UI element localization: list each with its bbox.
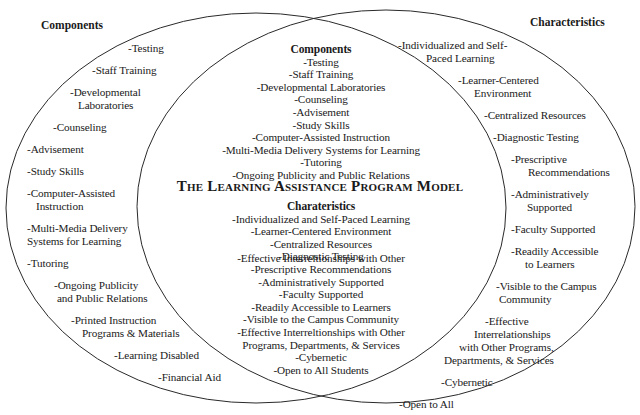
left-item-tutoring: -Tutoring [27,257,69,270]
right-item-readily-accessible: -Readily Accessible [511,245,598,258]
intersection-characteristic-item: -Visible to the Campus Community [171,313,471,326]
intersection-components: Components -Testing -Staff Training -Dev… [171,43,471,182]
right-item-visible-campus: -Visible to the Campus [496,280,597,293]
right-item-to-learners: to Learners [525,258,575,271]
right-item-effective: -Effective [485,315,529,328]
intersection-characteristic-item: -Administratively Supported [171,276,471,289]
diagram-title: The Learning Assistance Program Model [0,178,640,195]
intersection-characteristic-item: Programs, Departments, & Services [171,339,471,352]
intersection-component-item: -Testing [171,56,471,69]
left-item-developmental: -Developmental [70,86,141,99]
intersection-component-item: -Staff Training [171,68,471,81]
intersection-component-item: -Multi-Media Delivery Systems for Learni… [171,144,471,157]
intersection-characteristic-item: -Diagnostic Testing [171,250,471,263]
intersection-characteristic-item: -Centralized Resources [171,238,471,251]
intersection-characteristic-item: -Prescriptive Recommendations [171,263,471,276]
right-item-diagnostic-testing: -Diagnostic Testing [493,131,579,144]
intersection-characteristic-item: -Learner-Centered Environment [171,225,471,238]
left-item-advisement: -Advisement [27,143,84,156]
left-item-systems-for-learning: Systems for Learning [27,235,121,248]
intersection-component-item: -Advisement [171,106,471,119]
intersection-characteristic-item: -Readily Accessible to Learners [171,301,471,314]
intersection-component-item: -Developmental Laboratories [171,81,471,94]
left-item-programs-materials: Programs & Materials [82,327,179,340]
right-item-centralized-resources: -Centralized Resources [484,109,586,122]
left-item-staff-training: -Staff Training [92,64,157,77]
left-item-counseling: -Counseling [53,121,107,134]
intersection-component-item: -Tutoring [171,156,471,169]
left-item-multi-media: -Multi-Media Delivery [27,222,128,235]
right-item-prescriptive: -Prescriptive [511,153,567,166]
left-item-instruction: Instruction [36,200,83,213]
left-item-testing: -Testing [128,42,164,55]
intersection-component-item: -Study Skills [171,119,471,132]
intersection-components-heading: Components [171,43,471,56]
intersection-characteristic-item: -Faculty Supported [171,288,471,301]
right-set-heading: Characteristics [530,16,605,28]
right-item-faculty-supported: -Faculty Supported [511,223,595,236]
left-item-public-relations: and Public Relations [57,292,148,305]
intersection-component-item: -Counseling [171,93,471,106]
intersection-characteristic-item: -Cybernetic [171,351,471,364]
right-item-supported: Supported [527,201,572,214]
right-item-environment: Environment [474,87,531,100]
left-item-printed-instruction: -Printed Instruction [71,314,156,327]
intersection-characteristics-block: Charateristics -Individualized and Self-… [171,200,471,376]
intersection-component-item: -Computer-Assisted Instruction [171,131,471,144]
right-item-cybernetic: -Cybernetic [441,376,493,389]
right-item-community: Community [499,293,552,306]
intersection-characteristic-item: -Effective Interreltionships with Other [171,326,471,339]
left-item-study-skills: -Study Skills [27,165,84,178]
right-item-recommendations: Recommendations [528,166,610,179]
left-item-ongoing-publicity: -Ongoing Publicity [54,279,138,292]
intersection-characteristic-item: -Open to All Students [171,364,471,377]
right-item-with-other-programs: with Other Programs, [459,341,554,354]
intersection-characteristics-heading: Charateristics [171,200,471,213]
left-set-heading: Components [41,19,103,31]
right-item-open-to-all: -Open to All [399,398,454,411]
intersection-characteristic-item: -Individualized and Self-Paced Learning [171,213,471,226]
left-item-laboratories: Laboratories [78,99,133,112]
right-item-interrelationships: Interrelationships [474,328,551,341]
